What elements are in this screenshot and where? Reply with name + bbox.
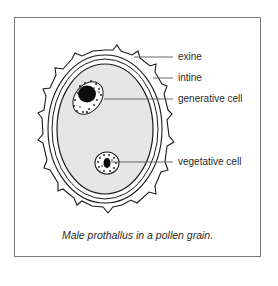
cytoplasm <box>57 64 153 194</box>
vegetative-cell <box>95 152 119 174</box>
generative-nucleus <box>78 86 96 103</box>
vegetative-nucleus <box>104 158 111 168</box>
label-exine: exine <box>178 51 202 63</box>
pollen-grain-diagram <box>0 0 278 286</box>
label-intine: intine <box>178 72 202 84</box>
label-generative-cell: generative cell <box>178 93 242 105</box>
label-vegetative-cell: vegetative cell <box>178 156 241 168</box>
figure-caption: Male prothallus in a pollen grain. <box>14 229 261 241</box>
